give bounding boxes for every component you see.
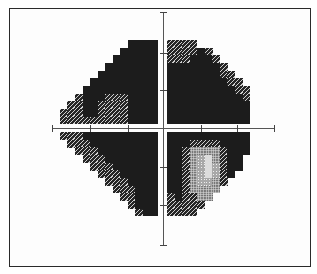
visual-field-greyscale-map xyxy=(0,0,317,274)
x-tick xyxy=(237,125,238,132)
axis-end-cap xyxy=(160,245,167,246)
field-cell xyxy=(150,209,158,217)
axis-end-cap xyxy=(52,125,53,132)
field-cell xyxy=(243,147,251,155)
field-cell xyxy=(205,193,213,201)
field-cell xyxy=(220,178,228,186)
field-cell xyxy=(190,209,198,217)
y-tick xyxy=(160,167,167,168)
y-tick xyxy=(160,53,167,54)
axis-end-cap xyxy=(160,12,167,13)
vertical-axis xyxy=(163,12,164,245)
field-cell xyxy=(235,163,243,171)
field-cell xyxy=(150,117,158,125)
y-tick xyxy=(160,90,167,91)
x-tick xyxy=(128,125,129,132)
field-cell xyxy=(243,117,251,125)
field-cell xyxy=(197,201,205,209)
field-cell xyxy=(227,170,235,178)
field-cell xyxy=(212,186,220,194)
y-tick xyxy=(160,205,167,206)
x-tick xyxy=(90,125,91,132)
axis-end-cap xyxy=(274,125,275,132)
x-tick xyxy=(201,125,202,132)
